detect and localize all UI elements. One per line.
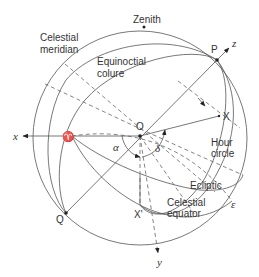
label-vernal-equinox: ♈ (62, 130, 74, 143)
z-axis (217, 48, 229, 60)
label-celestial-meridian-1: Celestial (40, 32, 78, 43)
label-hour-circle-2: circle (211, 148, 235, 159)
celestial-sphere-diagram: Zenith Celestial meridian Equinoctial co… (0, 0, 259, 277)
label-celestial-equator-2: equator (167, 208, 202, 219)
label-delta: δ (155, 142, 161, 154)
point-zenith (143, 26, 146, 29)
label-y: y (156, 256, 162, 268)
label-z: z (231, 37, 237, 49)
label-P: P (211, 44, 218, 55)
celestial-equator (72, 136, 232, 217)
point-O (138, 134, 142, 138)
label-O: O (136, 121, 144, 132)
label-epsilon: ε (231, 198, 236, 210)
label-celestial-meridian-2: meridian (40, 44, 78, 55)
label-ecliptic: Ecliptic (190, 180, 222, 191)
label-X: X (223, 111, 230, 122)
label-celestial-equator-1: Celestial (167, 197, 205, 208)
label-x: x (12, 130, 18, 142)
label-zenith: Zenith (133, 14, 161, 25)
label-alpha: α (113, 141, 119, 153)
label-Q: Q (56, 214, 64, 225)
point-X (218, 115, 220, 117)
point-P (215, 58, 219, 62)
label-equinoctial-colure-2: colure (97, 68, 125, 79)
label-hour-circle-1: Hour (211, 137, 233, 148)
ecliptic-back (45, 84, 243, 175)
celestial-meridian-curve (48, 80, 66, 213)
label-X-prime: X' (134, 209, 143, 220)
label-equinoctial-colure-1: Equinoctial (97, 56, 146, 67)
point-Q (64, 211, 68, 215)
